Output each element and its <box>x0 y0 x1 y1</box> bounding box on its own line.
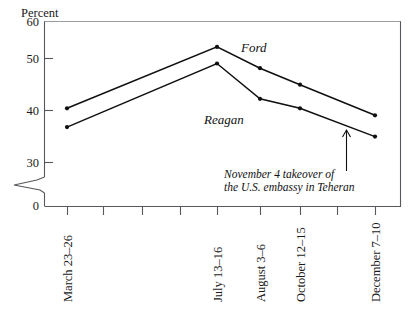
data-point <box>215 61 219 65</box>
y-tick-label-30: 30 <box>27 156 40 170</box>
data-point <box>258 97 262 101</box>
data-point <box>65 106 69 110</box>
y-tick-label-0: 0 <box>33 199 39 213</box>
ford-markers <box>65 45 377 118</box>
x-tick-label-october: October 12–15 <box>294 227 308 302</box>
y-tick-label-60: 60 <box>27 15 40 29</box>
annotation-arrow <box>343 130 351 171</box>
data-point <box>373 135 377 139</box>
x-axis-labels: March 23–26 July 13–16 August 3–6 Octobe… <box>61 223 383 302</box>
data-point <box>298 83 302 87</box>
y-tick-label-40: 40 <box>27 104 40 118</box>
data-point <box>258 66 262 70</box>
series-label-ford: Ford <box>240 40 267 55</box>
reagan-markers <box>65 61 377 138</box>
x-tick-label-july: July 13–16 <box>211 247 225 302</box>
x-axis-ticks <box>68 207 376 216</box>
annotation-line-1: November 4 takeover of <box>223 168 336 181</box>
y-axis-break-symbol <box>14 177 45 193</box>
chart-canvas: Percent 60 50 40 30 0 <box>0 0 415 313</box>
x-tick-label-march: March 23–26 <box>61 235 75 302</box>
data-point <box>373 113 377 117</box>
polling-line-chart: Percent 60 50 40 30 0 <box>0 0 415 313</box>
data-point <box>65 125 69 129</box>
y-tick-label-50: 50 <box>27 52 40 66</box>
series-label-reagan: Reagan <box>203 112 244 127</box>
y-axis-ticks: 60 50 40 30 0 <box>27 15 54 213</box>
data-point <box>298 106 302 110</box>
series-reagan <box>65 61 377 138</box>
annotation-line-2: the U.S. embassy in Teheran <box>224 181 355 194</box>
series-ford <box>65 45 377 118</box>
x-tick-label-august: August 3–6 <box>254 244 268 302</box>
x-tick-label-december: December 7–10 <box>369 223 383 302</box>
data-point <box>215 45 219 49</box>
ford-line <box>67 47 375 115</box>
